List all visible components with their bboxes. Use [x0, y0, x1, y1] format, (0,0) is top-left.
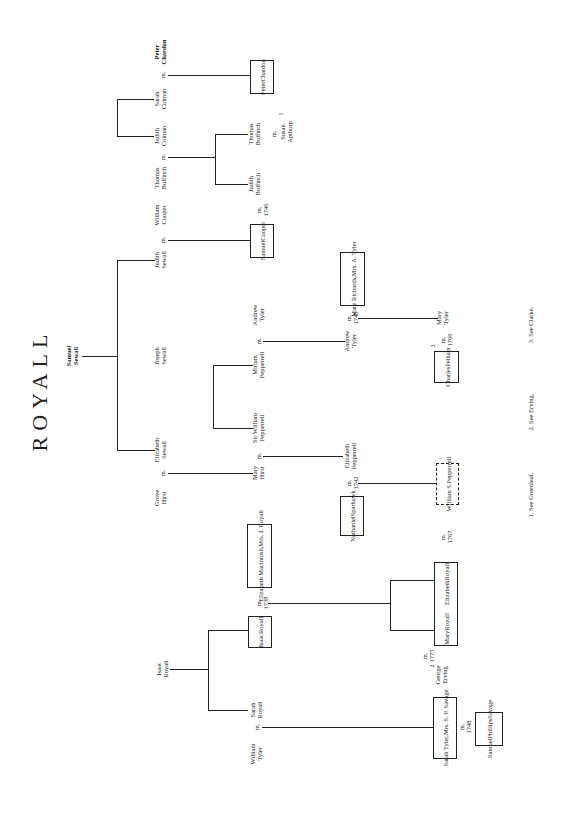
m-label: m.	[421, 653, 428, 660]
name-line: Royall	[256, 701, 263, 718]
person-isaac-royall-2: IsaacRoyall	[248, 616, 272, 648]
person-samuel-cooper: SamuelCooper	[250, 224, 274, 258]
name-line: Sarah	[249, 703, 256, 718]
name-line: Charles	[443, 367, 450, 387]
name-line: Miriam	[251, 355, 258, 375]
name-line: Andrew	[251, 305, 258, 326]
year: 1775	[428, 650, 435, 663]
person-samuel-phillips-savage: SamuelPhillipsSavage	[475, 712, 503, 746]
name-line: Elizabeth	[153, 438, 160, 463]
person-andrew-tyler: AndrewTyler	[251, 305, 265, 326]
person-royall-daughters: ElizabethRoyall MaryRoyall	[434, 562, 458, 646]
name-line: Mrs. S. P. Savage	[442, 690, 449, 736]
year: 1767	[446, 531, 453, 544]
name-line: Mrs. I. Royall	[256, 510, 263, 546]
name-line: Apthorp	[286, 121, 293, 143]
name-line: Tyler	[350, 331, 357, 352]
person-william-s-pepperrell: William S.Pepperrell	[436, 463, 459, 505]
name-line: Elizabeth Macintosh,	[256, 547, 263, 602]
marriage-m: m.	[159, 470, 166, 477]
name-line: Cooper	[259, 222, 266, 241]
person-charles-pelham: CharlesPelham	[434, 351, 459, 383]
connector-line	[358, 483, 436, 484]
m-label: m.	[345, 480, 352, 487]
footnote-marker: 2	[429, 665, 435, 668]
person-thomas-bulfinch: ThomasBulfinch	[153, 167, 167, 190]
name-line: Andrew	[343, 331, 350, 352]
name-line: Sir William	[251, 413, 258, 443]
name-line: Bulfinch	[254, 173, 261, 196]
m-label: m.	[255, 207, 262, 214]
name-line: Peter	[259, 82, 266, 95]
name-line: Royall	[443, 563, 450, 580]
footnote-1: 1. See Greenleaf.	[527, 473, 534, 518]
connector-line	[117, 260, 155, 261]
name-line: Samuel	[486, 739, 493, 759]
name-line: Mary	[435, 311, 442, 325]
name-line: Sarah Tyler,	[442, 735, 449, 766]
name-line: Sparhawk	[349, 490, 356, 516]
marriage-date: m.1766	[439, 334, 453, 347]
person-samuel-sewall: SamuelSewall	[65, 346, 79, 367]
person-judith-colman: JudithColman	[153, 126, 167, 147]
person-peter-chardon-2: PeterChardon	[250, 60, 274, 94]
name-line: Judith	[153, 252, 160, 268]
footnote-marker: 3	[430, 345, 436, 348]
connector-line	[213, 365, 253, 366]
person-judith-bulfinch: JudithBulfinch	[247, 173, 261, 196]
person-peter-chardon: PeterChardon	[153, 40, 167, 65]
marriage-date: m.1746	[255, 204, 269, 217]
name-line: Royall	[257, 617, 264, 634]
connector-line	[390, 630, 434, 631]
name-line: Chardon	[160, 40, 167, 65]
name-line: Samuel	[259, 241, 266, 261]
connector-line	[168, 157, 215, 158]
name-line: Savage	[486, 700, 493, 719]
person-elizabeth-mackintosh: Elizabeth Macintosh,Mrs. I. Royall	[247, 524, 272, 588]
person-isaac-royall: IsaacRoyall	[155, 660, 169, 677]
footnote-marker: 1	[278, 113, 284, 116]
year: 1766	[446, 334, 453, 347]
connector-line	[117, 136, 154, 137]
name-line: Pepperrell	[444, 457, 451, 484]
connector-line	[215, 134, 216, 184]
m-label: m.	[439, 337, 446, 344]
m-label: m.	[458, 724, 465, 731]
person-sarah-colman: SarahColman	[153, 89, 167, 110]
name-line: Phillips	[486, 719, 493, 739]
connector-line	[358, 318, 438, 319]
person-mary-tyler: MaryTyler	[435, 311, 449, 325]
name-line: Pepperrell	[258, 352, 265, 379]
name-line: Grove	[153, 490, 160, 506]
person-george-erving: GeorgeErving	[434, 665, 448, 684]
name-line: Elizabeth	[343, 444, 350, 469]
marriage-m: m.	[159, 154, 166, 161]
connector-line	[117, 99, 154, 100]
name-line: Mary	[443, 630, 450, 644]
name-line: Chardon	[259, 59, 266, 81]
year: 1742	[352, 477, 359, 490]
name-line: Tyler	[258, 305, 265, 326]
name-line: Judith	[247, 176, 254, 192]
name-line: Pepperrell	[258, 413, 265, 443]
marriage-m: m.	[255, 338, 262, 345]
marriage-m: m.	[255, 453, 262, 460]
name-line: Sewall	[160, 438, 167, 463]
name-line: Royall	[162, 660, 169, 677]
marriage-m: m.	[159, 237, 166, 244]
connector-line	[208, 630, 248, 631]
person-thomas-bulfinch-2: ThomasBulfinch	[247, 123, 261, 146]
person-andrew-tyler-2: AndrewTyler	[343, 331, 357, 352]
name-line: Mrs. A. Tyler	[349, 241, 356, 276]
marriage-date: m.1742	[345, 477, 359, 490]
name-line: Mary Richards,	[349, 276, 356, 316]
connector-line	[213, 365, 214, 428]
year: 1748	[465, 721, 472, 734]
connector-line	[170, 669, 208, 670]
person-elizabeth-sewall: ElizabethSewall	[153, 438, 167, 463]
connector-line	[208, 710, 248, 711]
m-label: m.	[439, 534, 446, 541]
marriage-m: m.	[253, 724, 260, 731]
connector-line	[268, 603, 390, 604]
name-line: Joseph	[153, 347, 160, 365]
